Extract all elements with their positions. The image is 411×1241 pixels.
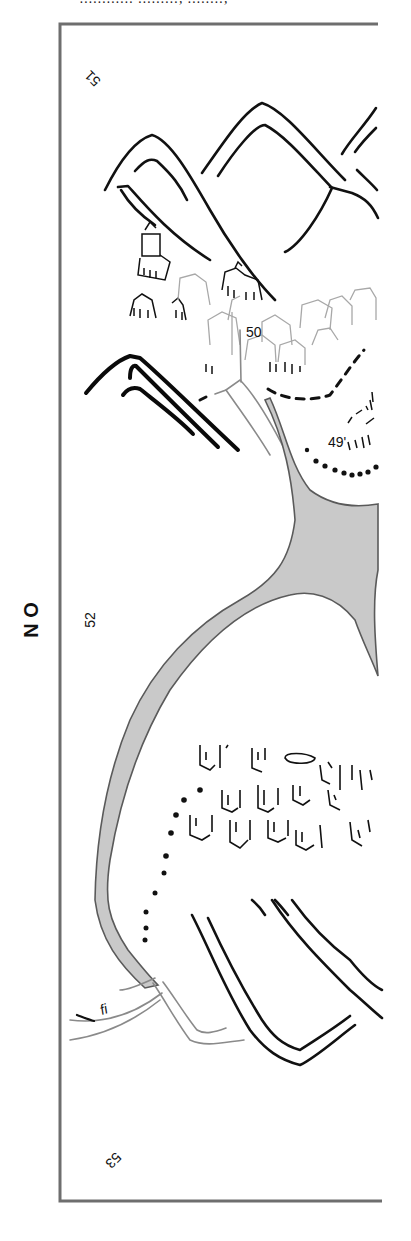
mountain-range-top: [105, 103, 378, 300]
streams-lower: [70, 978, 244, 1044]
grid-label-52: 52: [82, 612, 98, 628]
river: [95, 398, 378, 988]
dotted-boundary-upper: [305, 448, 379, 478]
dashed-boundary: [268, 350, 364, 399]
mountain-range-bottom: [192, 900, 382, 1065]
stream-label: fi: [98, 1000, 111, 1018]
settlement-label-49: 49': [328, 434, 346, 450]
map-canvas: 51 50 49' N O 52 fi 53: [0, 0, 411, 1241]
town-upper: [130, 222, 376, 374]
direction-label-no: N O: [20, 602, 42, 638]
mountain-range-left: [86, 356, 238, 450]
settlement-marks: [348, 392, 374, 450]
grid-label-51: 51: [81, 67, 103, 89]
grid-label-53: 53: [102, 1149, 124, 1171]
city-label-50: 50: [246, 324, 262, 340]
dashed-boundary-left: [200, 397, 206, 400]
tent-camp-lower: [190, 745, 372, 850]
